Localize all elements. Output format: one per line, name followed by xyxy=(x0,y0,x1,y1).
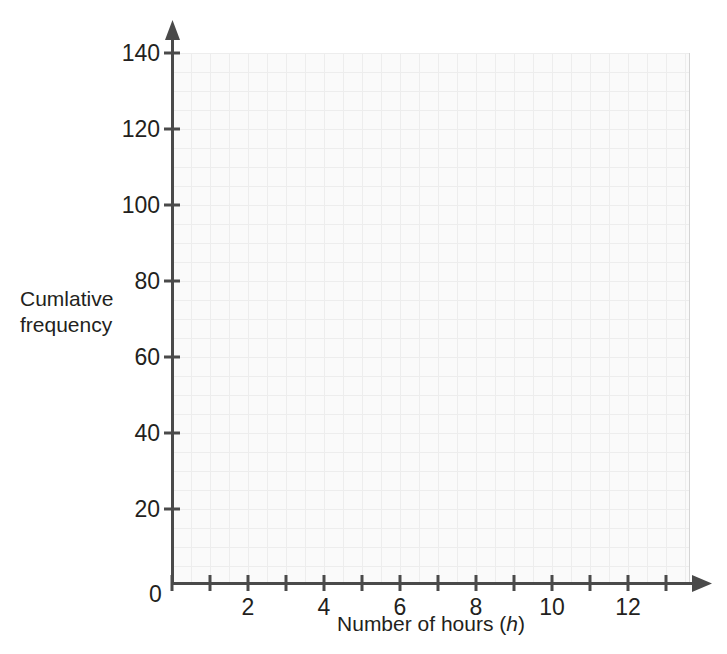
x-axis-title-variable: h xyxy=(506,612,518,635)
cumulative-frequency-chart: 140 120 100 80 60 40 20 0 2 4 6 8 10 12 … xyxy=(0,0,727,654)
y-axis-title: Cumlative frequency xyxy=(20,286,155,337)
y-tick-label-20: 20 xyxy=(60,498,160,521)
x-axis-title-suffix: ) xyxy=(518,612,525,635)
origin-label-0: 0 xyxy=(149,583,162,606)
x-axis-title-prefix: Number of hours ( xyxy=(337,612,506,635)
x-axis-arrowhead xyxy=(692,575,712,592)
y-axis-arrowhead xyxy=(165,20,180,40)
y-axis-title-line-2: frequency xyxy=(20,312,155,338)
y-tick-label-120: 120 xyxy=(60,118,160,141)
y-tick-label-40: 40 xyxy=(60,422,160,445)
y-tick-label-140: 140 xyxy=(60,42,160,65)
x-axis-title: Number of hours (h) xyxy=(172,613,690,634)
y-tick-label-100: 100 xyxy=(60,194,160,217)
y-axis-title-line-1: Cumlative xyxy=(20,286,155,312)
y-tick-label-60: 60 xyxy=(60,346,160,369)
